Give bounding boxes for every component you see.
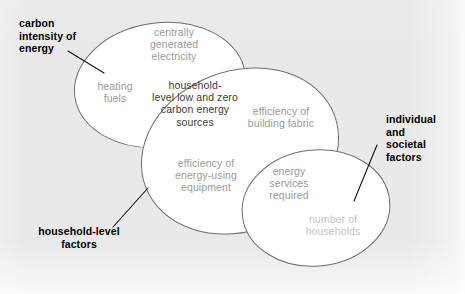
label-number-of-households: number of households (285, 213, 381, 237)
label-household-level-low-and-zero-carbon-energy-sources: household- level low and zero carbon ene… (140, 79, 250, 128)
leader-line-household-level-factors (113, 188, 148, 227)
callout-carbon-intensity-of-energy: carbon intensity of energy (19, 17, 99, 55)
label-efficiency-of-energy-using-equipment: efficiency of energy-using equipment (158, 157, 254, 194)
diagram-figure: centrally generated electricity heating … (0, 0, 465, 294)
label-energy-services-required: energy services required (253, 165, 325, 202)
callout-household-level-factors: household-level factors (30, 225, 128, 250)
callout-individual-and-societal-factors: individual and societal factors (386, 113, 462, 163)
label-centrally-generated-electricity: centrally generated electricity (126, 26, 222, 63)
label-heating-fuels: heating fuels (84, 80, 146, 104)
label-efficiency-of-building-fabric: efficiency of building fabric (235, 105, 327, 129)
